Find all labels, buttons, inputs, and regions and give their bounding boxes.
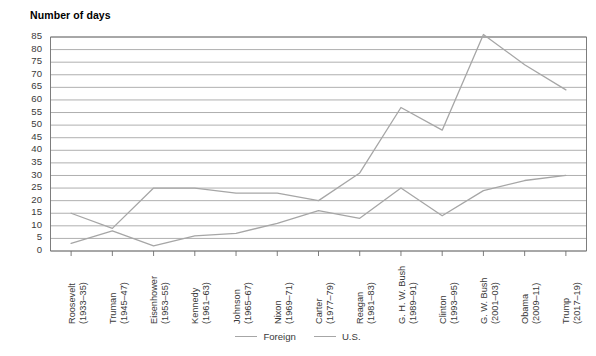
y-axis-tick-label: 30 [18, 170, 42, 180]
y-axis-tick-label: 60 [18, 94, 42, 104]
x-axis-tick-label: Obama(2009–11) [520, 283, 542, 324]
x-axis-tick-label: Truman(1945–47) [108, 282, 130, 324]
y-axis-tick-label: 65 [18, 81, 42, 91]
x-axis-tick-label-years: (1945–47) [119, 282, 130, 324]
x-axis-tick-label-name: Eisenhower [149, 276, 159, 324]
y-axis-tick-label: 70 [18, 69, 42, 79]
y-axis-tick-label: 55 [18, 107, 42, 117]
x-axis-tick-label-name: Johnson [232, 289, 242, 324]
x-axis-tick-label: Roosevelt(1933–35) [67, 282, 89, 324]
y-axis-tick-label: 10 [18, 220, 42, 230]
legend-label: Foreign [263, 331, 296, 342]
chart-legend: ForeignU.S. [0, 328, 596, 344]
y-axis-tick-label: 0 [18, 245, 42, 255]
legend-label: U.S. [342, 331, 361, 342]
x-axis-tick-label-years: (1977–79) [325, 282, 336, 324]
x-axis-tick-label-years: (2001–03) [490, 278, 501, 324]
x-axis-tick-label-years: (2009–11) [531, 283, 542, 324]
x-axis-tick-label: G. H. W. Bush(1989–91) [397, 266, 419, 324]
legend-swatch-line-icon [235, 336, 257, 337]
x-axis-tick-label: Eisenhower(1953–55) [149, 276, 171, 324]
x-axis-tick-label: Reagan(1981–83) [355, 282, 377, 324]
x-axis-tick-label: Johnson(1965–67) [232, 282, 254, 324]
x-axis-tick-label-name: G. H. W. Bush [397, 266, 407, 324]
x-axis-tick-marks [71, 251, 566, 256]
x-axis-tick-label-name: Clinton [438, 295, 448, 324]
x-axis-tick-label: Carter(1977–79) [314, 282, 336, 324]
legend-entry: Foreign [235, 331, 296, 342]
legend-swatch-line-icon [314, 336, 336, 337]
x-axis-tick-label: Kennedy(1961–63) [190, 282, 212, 324]
y-axis-tick-label: 25 [18, 182, 42, 192]
series-lines [71, 34, 566, 245]
x-axis-tick-label: Nixon(1969–71) [273, 282, 295, 324]
y-axis-tick-label: 40 [18, 144, 42, 154]
y-axis-tick-label: 15 [18, 207, 42, 217]
series-line-foreign [71, 34, 566, 228]
series-line-u-s [71, 175, 566, 245]
y-axis-tick-label: 75 [18, 56, 42, 66]
x-axis-tick-label-name: Trump [561, 298, 571, 324]
gridlines [51, 37, 587, 251]
x-axis-tick-label-name: G. W. Bush [479, 278, 489, 324]
axis-frame [51, 37, 587, 251]
x-axis-tick-label-years: (1953–55) [160, 276, 171, 324]
x-axis-tick-label: Clinton(1993–95) [438, 282, 460, 324]
x-axis-tick-label-years: (2017–19) [572, 282, 583, 324]
y-axis-tick-label: 80 [18, 44, 42, 54]
y-axis-tick-label: 5 [18, 232, 42, 242]
x-axis-tick-label: G. W. Bush(2001–03) [479, 278, 501, 324]
x-axis-tick-label-name: Carter [314, 298, 324, 324]
x-axis-tick-label-name: Reagan [355, 292, 365, 324]
x-axis-tick-label: Trump(2017–19) [561, 282, 583, 324]
legend-entry: U.S. [314, 331, 361, 342]
x-axis-tick-label-name: Nixon [273, 301, 283, 325]
x-axis-tick-label-years: (1993–95) [449, 282, 460, 324]
x-axis-tick-label-name: Obama [520, 294, 530, 324]
x-axis-tick-label-years: (1965–67) [243, 282, 254, 324]
x-axis-tick-label-name: Kennedy [190, 288, 200, 324]
y-axis-tick-label: 50 [18, 119, 42, 129]
x-axis-tick-label-years: (1969–71) [284, 282, 295, 324]
y-axis-tick-label: 45 [18, 132, 42, 142]
x-axis-tick-label-years: (1981–83) [366, 282, 377, 324]
x-axis-tick-label-years: (1961–63) [201, 282, 212, 324]
chart-canvas [0, 0, 596, 356]
x-axis-tick-label-name: Truman [108, 293, 118, 324]
x-axis-tick-label-name: Roosevelt [67, 283, 77, 324]
x-axis-tick-label-years: (1933–35) [78, 282, 89, 324]
x-axis-tick-label-years: (1989–91) [408, 266, 419, 324]
chart-figure: Number of days 8580757065605550454035302… [0, 0, 596, 356]
plot-area: 8580757065605550454035302520151050 Roose… [0, 0, 596, 356]
y-axis-tick-label: 20 [18, 195, 42, 205]
y-axis-tick-label: 35 [18, 157, 42, 167]
y-axis-tick-label: 85 [18, 31, 42, 41]
